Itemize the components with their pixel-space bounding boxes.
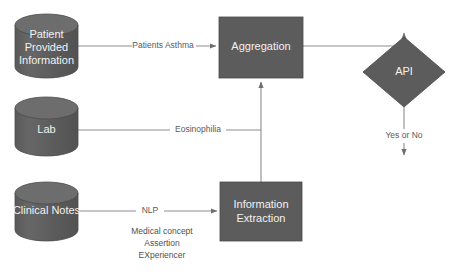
- edge-lab-to-aggregation: Eosinophilia: [78, 123, 261, 137]
- edge-label-patients-asthma: Patients Asthma: [132, 40, 194, 50]
- node-label-api: API: [395, 65, 413, 77]
- node-api[interactable]: API: [363, 37, 445, 107]
- edge-label-nlp: NLP: [142, 205, 159, 215]
- node-label-line-2: Provided: [25, 41, 68, 53]
- diagram-canvas: Patients Asthma Eosinophilia NLP Yes or …: [0, 0, 458, 272]
- edge-patient-to-aggregation: Patients Asthma: [78, 39, 216, 53]
- node-label-line-1: Patient: [29, 28, 63, 40]
- cylinder-top: [15, 182, 78, 204]
- node-label-line-2: Extraction: [237, 212, 286, 224]
- node-clinical-notes[interactable]: Clinical Notes: [13, 182, 81, 241]
- note-experiencer: EXperiencer: [139, 250, 186, 260]
- node-label-line-3: Information: [19, 54, 74, 66]
- edge-clinical-notes-to-information-extraction: NLP: [78, 204, 217, 218]
- diagram-svg: Patients Asthma Eosinophilia NLP Yes or …: [0, 0, 458, 272]
- node-label-line-1: Information: [233, 198, 288, 210]
- note-assertion: Assertion: [144, 238, 180, 248]
- edge-aggregation-to-api: [303, 33, 404, 46]
- node-lab[interactable]: Lab: [15, 97, 78, 156]
- node-aggregation[interactable]: Aggregation: [219, 17, 303, 78]
- node-label-clinical-notes: Clinical Notes: [13, 204, 81, 216]
- note-medical-concept: Medical concept: [131, 226, 193, 236]
- edge-api-output: Yes or No: [376, 107, 432, 155]
- node-label-lab: Lab: [37, 123, 55, 135]
- edge-label-eosinophilia: Eosinophilia: [175, 124, 221, 134]
- node-patient-provided-information[interactable]: Patient Provided Information: [15, 14, 78, 78]
- edge-label-yes-or-no: Yes or No: [385, 130, 422, 140]
- note-nlp-tasks: Medical concept Assertion EXperiencer: [131, 226, 193, 260]
- cylinder-top: [15, 97, 78, 119]
- node-label-aggregation: Aggregation: [231, 40, 290, 52]
- node-information-extraction[interactable]: Information Extraction: [220, 182, 302, 241]
